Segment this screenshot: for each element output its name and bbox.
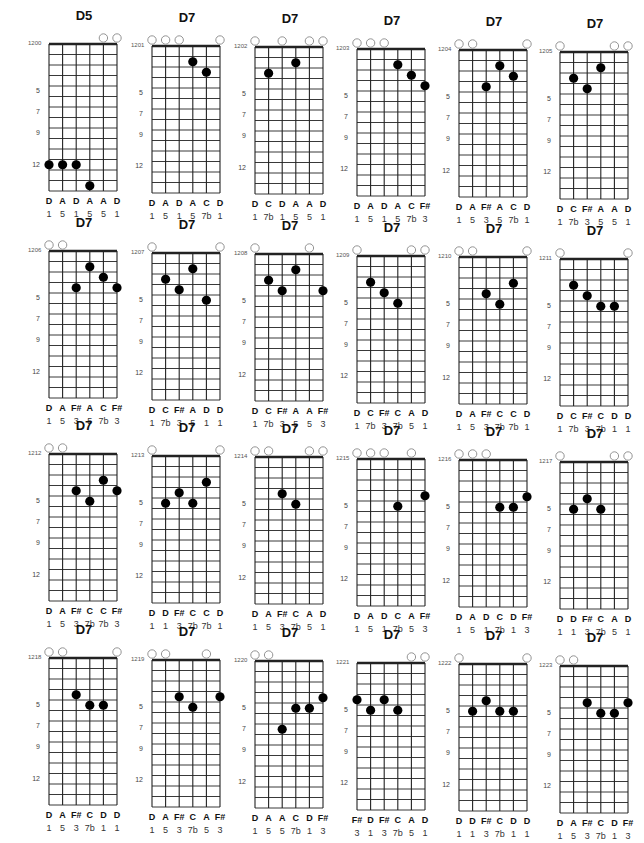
- interval-label: 1: [109, 823, 125, 833]
- fretboard: [147, 430, 225, 607]
- finger-dot-icon: [202, 295, 211, 304]
- finger-dot-icon: [99, 476, 108, 485]
- note-name: D: [417, 408, 433, 418]
- finger-dot-icon: [393, 298, 402, 307]
- chord-id: 1203: [336, 45, 349, 51]
- chord-id: 1219: [131, 656, 144, 662]
- chord-diagram: D7122057912DAACDF#1557b13: [236, 625, 340, 825]
- chord-id: 1202: [234, 43, 247, 49]
- open-string-icon: [407, 652, 415, 660]
- fret-marker-label: 5: [28, 87, 40, 94]
- fret-marker-label: 12: [131, 369, 143, 376]
- finger-dot-icon: [569, 73, 578, 82]
- finger-dot-icon: [407, 70, 416, 79]
- chord-id: 1215: [336, 455, 349, 461]
- chord-id: 1201: [131, 42, 144, 48]
- note-name: D: [315, 609, 331, 619]
- fret-marker-label: 7: [438, 321, 450, 328]
- open-string-icon: [161, 649, 169, 657]
- fret-marker-label: 9: [28, 539, 40, 546]
- finger-dot-icon: [99, 701, 108, 710]
- fretboard: [454, 638, 532, 815]
- open-string-icon: [99, 34, 107, 42]
- fretboard: [352, 637, 430, 814]
- open-string-icon: [556, 248, 564, 256]
- fret-marker-label: 5: [131, 499, 143, 506]
- finger-dot-icon: [610, 708, 619, 717]
- finger-dot-icon: [188, 702, 197, 711]
- fret-marker-label: 12: [234, 574, 246, 581]
- finger-dot-icon: [175, 692, 184, 701]
- finger-dot-icon: [583, 698, 592, 707]
- note-name: D: [519, 409, 535, 419]
- fret-marker-label: 9: [131, 745, 143, 752]
- note-names-row: DDF#CDD: [446, 816, 530, 828]
- fretboard: [44, 225, 122, 402]
- note-name: F#: [417, 611, 433, 621]
- fret-marker-label: 9: [336, 544, 348, 551]
- open-string-icon: [319, 37, 327, 45]
- fret-marker-label: 5: [131, 703, 143, 710]
- open-string-icon: [366, 38, 374, 46]
- finger-dot-icon: [264, 69, 273, 78]
- chord-id: 1217: [539, 458, 552, 464]
- chord-diagram: D7120957912DCF#CAD17b37b51: [338, 220, 442, 420]
- fret-marker-label: 7: [28, 518, 40, 525]
- fret-marker-label: 7: [131, 110, 143, 117]
- open-string-icon: [161, 35, 169, 43]
- finger-dot-icon: [278, 489, 287, 498]
- fret-marker-label: 5: [438, 503, 450, 510]
- fretboard: [555, 640, 633, 817]
- open-string-icon: [468, 247, 476, 255]
- note-names-row: DCF#ADD: [139, 405, 223, 417]
- finger-dot-icon: [188, 264, 197, 273]
- open-string-icon: [482, 450, 490, 458]
- open-string-icon: [319, 447, 327, 455]
- fret-marker-label: 12: [234, 371, 246, 378]
- chord-diagram: D7120157912DADACD15157b1: [133, 10, 237, 210]
- fretboard: [352, 433, 430, 610]
- chord-diagram: D7121857912DAF#CDD1537b11: [30, 622, 134, 822]
- fretboard: [250, 431, 328, 608]
- fret-marker-label: 7: [539, 116, 551, 123]
- open-string-icon: [58, 444, 66, 452]
- chord-id: 1200: [28, 40, 41, 46]
- note-name: F#: [417, 201, 433, 211]
- fret-marker-label: 12: [336, 372, 348, 379]
- open-string-icon: [305, 244, 313, 252]
- fret-marker-label: 5: [336, 92, 348, 99]
- chord-diagram: D7121257912DAF#CCF#1537b7b3: [30, 418, 134, 618]
- open-string-icon: [45, 648, 53, 656]
- fret-marker-label: 9: [28, 336, 40, 343]
- note-name: D: [109, 196, 125, 206]
- chord-id: 1209: [336, 252, 349, 258]
- open-string-icon: [556, 41, 564, 49]
- fret-marker-label: 12: [131, 776, 143, 783]
- fret-marker-label: 9: [539, 344, 551, 351]
- open-string-icon: [216, 242, 224, 250]
- note-names-row: DADCAF#: [344, 611, 428, 623]
- fret-marker-label: 9: [234, 339, 246, 346]
- note-names-row: DAACDF#: [242, 813, 326, 825]
- finger-dot-icon: [522, 492, 531, 501]
- fret-marker-label: 5: [336, 299, 348, 306]
- note-names-row: DAF#ACF#: [36, 403, 120, 415]
- finger-dot-icon: [305, 704, 314, 713]
- fret-marker-label: 9: [438, 342, 450, 349]
- fretboard: [250, 228, 328, 405]
- fret-marker-label: 12: [336, 165, 348, 172]
- finger-dot-icon: [393, 705, 402, 714]
- open-string-icon: [58, 241, 66, 249]
- finger-dot-icon: [291, 500, 300, 509]
- chord-diagram: D7121157912DCF#CDD17b37b11: [541, 223, 644, 423]
- fret-marker-label: 7: [234, 521, 246, 528]
- open-string-icon: [305, 447, 313, 455]
- interval-label: 3: [212, 825, 228, 835]
- fret-marker-label: 12: [234, 164, 246, 171]
- fret-marker-label: 7: [539, 323, 551, 330]
- fret-marker-label: 12: [438, 781, 450, 788]
- finger-dot-icon: [380, 695, 389, 704]
- finger-dot-icon: [482, 289, 491, 298]
- open-string-icon: [523, 40, 531, 48]
- finger-dot-icon: [85, 701, 94, 710]
